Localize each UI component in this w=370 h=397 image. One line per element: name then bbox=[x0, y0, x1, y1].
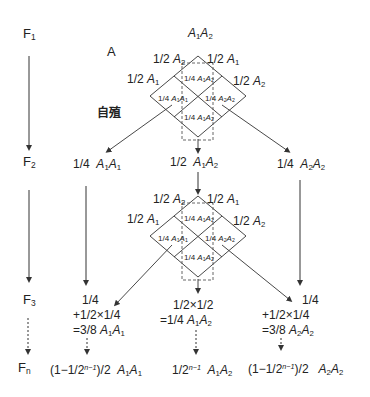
f2-arrows bbox=[86, 172, 300, 283]
punnett-cell-left: 1/4 A1A1 bbox=[158, 92, 188, 107]
f3-right-line2: +1/2×1/4 bbox=[262, 308, 309, 322]
punnett2-cell-left: 1/4 A1A1 bbox=[158, 232, 188, 247]
fn-right: (1−1/2n−1)/2 A2A2 bbox=[248, 360, 343, 380]
generation-label-f3: F3 bbox=[23, 293, 36, 310]
gamete2-left: 1/2 A1 bbox=[127, 212, 159, 230]
punnett-cell-bottom: 1/4 A1A2 bbox=[184, 111, 214, 126]
gamete2-right: 1/2 A2 bbox=[233, 214, 265, 232]
punnett-cell-right: 1/4 A2A2 bbox=[205, 92, 235, 107]
gamete-left: 1/2 A1 bbox=[127, 72, 159, 90]
fn-center: 1/2n−1 A1A2 bbox=[172, 361, 232, 381]
gamete-right: 1/2 A2 bbox=[233, 74, 265, 92]
generation-label-f2: F2 bbox=[23, 155, 36, 172]
f1-genotype: A1A2 bbox=[188, 26, 213, 44]
f3-right-line3: =3/8 A2A2 bbox=[262, 323, 314, 341]
f3-left-line2: +1/2×1/4 bbox=[73, 308, 120, 322]
punnett2-cell-bottom: 1/4 A1A2 bbox=[184, 251, 214, 266]
label-a: A bbox=[107, 45, 116, 59]
generation-label-fn: Fn bbox=[18, 361, 31, 378]
punnett-cell-top: 1/4 A1A2 bbox=[184, 72, 214, 87]
punnett2-cell-top: 1/4 A1A2 bbox=[184, 212, 214, 227]
generation-label-f1: F1 bbox=[23, 27, 36, 44]
fn-left: (1−1/2n−1)/2 A1A1 bbox=[50, 361, 142, 381]
f3-left-line1: 1/4 bbox=[82, 293, 99, 307]
selfing-label: 自殖 bbox=[97, 106, 121, 120]
f2-left: 1/4 A1A1 bbox=[73, 157, 121, 175]
gamete2-upper-left: 1/2 A2 bbox=[153, 192, 185, 210]
gamete2-upper-right: 1/2 A1 bbox=[207, 192, 239, 210]
gamete-upper-left: 1/2 A2 bbox=[153, 52, 185, 70]
f3-left-line3: =3/8 A1A1 bbox=[73, 323, 125, 341]
punnett2-cell-right: 1/4 A2A2 bbox=[205, 232, 235, 247]
f3-right-line1: 1/4 bbox=[302, 293, 319, 307]
f2-center: 1/2 A1A2 bbox=[170, 155, 218, 173]
f3-center-line1: 1/2×1/2 bbox=[173, 298, 213, 312]
gamete-upper-right: 1/2 A1 bbox=[207, 52, 239, 70]
f2-right: 1/4 A2A2 bbox=[277, 157, 325, 175]
f3-center-line2: =1/4 A1A2 bbox=[160, 313, 212, 331]
punnett-diamond-1 bbox=[108, 56, 288, 151]
